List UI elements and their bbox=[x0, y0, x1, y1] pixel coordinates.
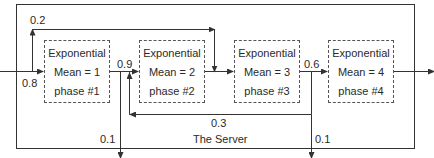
server-label: The Server bbox=[193, 133, 247, 145]
phase-3-mean: Mean = 3 bbox=[244, 66, 290, 78]
prob-enter-label: 0.8 bbox=[22, 77, 37, 89]
prob-p1-exit-label: 0.1 bbox=[100, 133, 115, 145]
phase-2-dist: Exponential bbox=[143, 47, 201, 59]
phase-3-dist: Exponential bbox=[238, 47, 296, 59]
phase-4-label: phase #4 bbox=[338, 85, 383, 97]
phase-1-mean: Mean = 1 bbox=[54, 66, 100, 78]
prob-p3-p4-label: 0.6 bbox=[304, 58, 319, 70]
prob-p1-p2-label: 0.9 bbox=[117, 58, 132, 70]
prob-bypass-label: 0.2 bbox=[30, 14, 45, 26]
phase-4-dist: Exponential bbox=[332, 47, 390, 59]
phase-2-box: Exponential Mean = 2 phase #2 bbox=[139, 40, 205, 103]
phase-2-label: phase #2 bbox=[149, 85, 194, 97]
phase-3-label: phase #3 bbox=[244, 85, 289, 97]
phase-4-box: Exponential Mean = 4 phase #4 bbox=[328, 40, 394, 103]
prob-feedback-label: 0.3 bbox=[211, 117, 226, 129]
phase-1-box: Exponential Mean = 1 phase #1 bbox=[44, 40, 110, 103]
phase-2-mean: Mean = 2 bbox=[149, 66, 195, 78]
phase-1-dist: Exponential bbox=[48, 47, 106, 59]
phase-4-mean: Mean = 4 bbox=[338, 66, 384, 78]
phase-3-box: Exponential Mean = 3 phase #3 bbox=[234, 40, 300, 103]
phase-1-label: phase #1 bbox=[54, 85, 99, 97]
prob-p3-exit-label: 0.1 bbox=[315, 133, 330, 145]
